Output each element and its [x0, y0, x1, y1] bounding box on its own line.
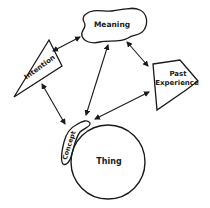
arrow-past-experience-concept: [95, 92, 149, 119]
arrow-intention-concept: [42, 84, 65, 124]
thing-node: Thing: [71, 125, 145, 199]
intention-label: Intention: [23, 53, 57, 81]
arrow-meaning-past-experience: [127, 42, 148, 66]
concept-meaning-diagram: Meaning Intention Past Experience Thing …: [0, 0, 210, 208]
meaning-label: Meaning: [94, 20, 130, 29]
past-experience-label-line1: Past: [169, 70, 187, 78]
past-experience-label-line2: Experience: [155, 79, 199, 87]
meaning-node: Meaning: [82, 8, 147, 42]
thing-label: Thing: [96, 157, 122, 166]
arrow-meaning-intention: [53, 37, 80, 51]
concept-node: Concept: [61, 121, 90, 165]
arrow-meaning-concept: [86, 45, 108, 115]
arrows: [42, 37, 149, 124]
past-experience-node: Past Experience: [153, 60, 199, 110]
intention-node: Intention: [14, 40, 62, 97]
